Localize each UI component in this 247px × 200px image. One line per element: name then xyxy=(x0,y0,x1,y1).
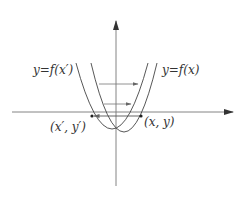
label-point-x-prime-y-prime: (x′, y′) xyxy=(50,121,86,133)
point-x-prime-y-prime xyxy=(90,114,93,117)
point-x-y xyxy=(139,114,142,117)
label-point-x-y: (x, y) xyxy=(144,116,175,128)
label-curve-f-x: y=f(x) xyxy=(162,64,199,76)
curve-f-x-prime xyxy=(76,63,148,129)
label-curve-f-x-prime: y=f(x′) xyxy=(33,64,73,76)
function-translation-diagram xyxy=(0,0,247,200)
